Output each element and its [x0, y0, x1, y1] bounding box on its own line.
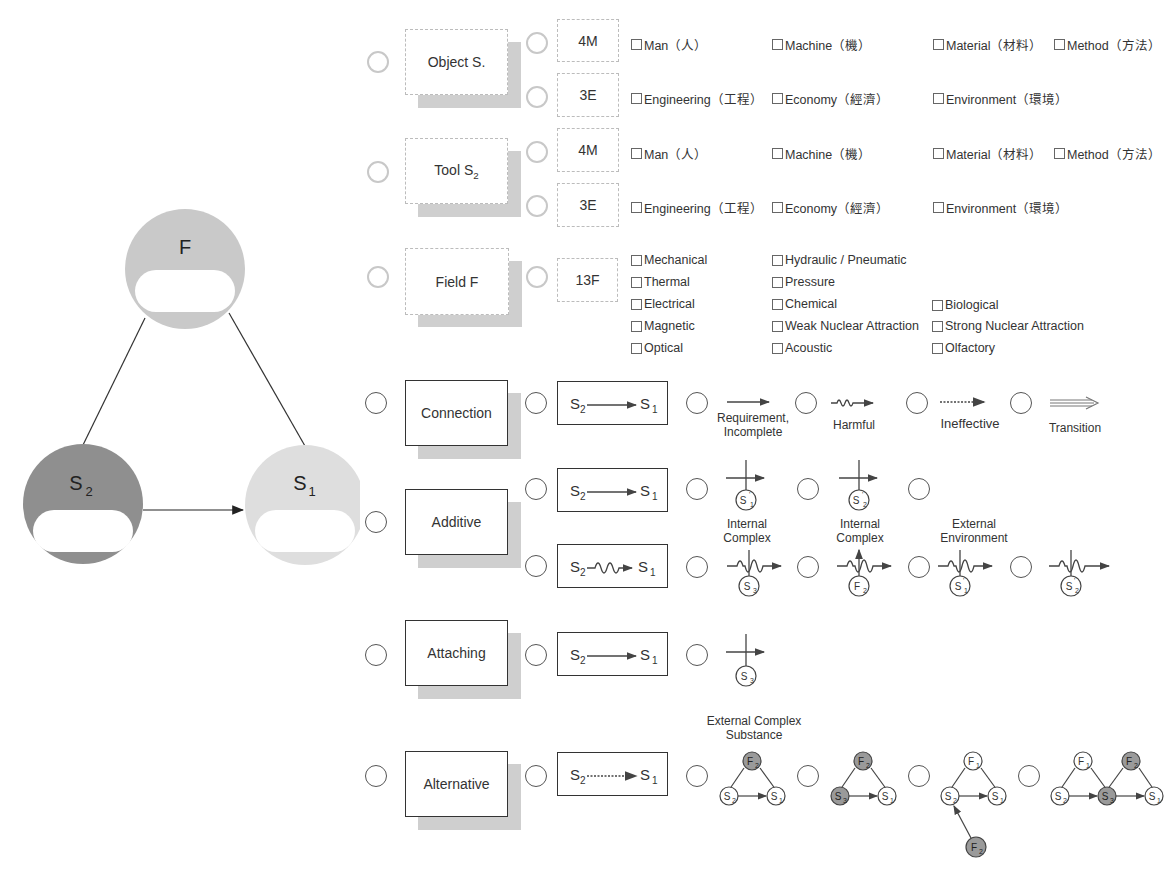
svg-text:1: 1 — [1086, 762, 1090, 769]
svg-text:S: S — [570, 395, 580, 412]
svg-text:2: 2 — [755, 762, 759, 769]
field-radio[interactable] — [367, 266, 389, 288]
wavy-node-s3-icon: S3 — [725, 548, 789, 598]
alternative-option-3-radio[interactable] — [908, 765, 930, 787]
object-environment-checkbox[interactable]: Environment（環境） — [933, 89, 1068, 108]
wavy-arrow-icon — [829, 395, 885, 411]
additive-radio[interactable] — [365, 511, 387, 533]
connection-radio[interactable] — [365, 392, 387, 414]
svg-text:S: S — [835, 791, 842, 802]
svg-text:2: 2 — [1063, 797, 1067, 804]
field-optical-checkbox[interactable]: Optical — [631, 341, 683, 355]
connection-card[interactable]: Connection — [405, 380, 508, 446]
connection-ineffective-radio[interactable] — [906, 392, 928, 414]
attaching-formula-radio[interactable] — [525, 644, 547, 666]
connection-requirement-radio[interactable] — [686, 392, 708, 414]
additive-s3-radio[interactable] — [686, 556, 708, 578]
field-olfactory-checkbox[interactable]: Olfactory — [932, 341, 995, 355]
cross-arrow-s2-icon: S2' — [835, 460, 885, 512]
svg-text:1: 1 — [1157, 797, 1161, 804]
solid-arrow-formula: S2 S1 — [558, 632, 667, 676]
additive-solid-radio[interactable] — [525, 478, 547, 500]
alternative-option-1-radio[interactable] — [686, 765, 708, 787]
field-13f-radio[interactable] — [526, 266, 548, 288]
additive-external-radio[interactable] — [908, 478, 930, 500]
object-economy-checkbox[interactable]: Economy（經濟） — [772, 89, 889, 108]
field-13f-box: 13F — [557, 258, 618, 302]
field-card[interactable]: Field F — [405, 248, 509, 315]
object-material-checkbox[interactable]: Material（材料） — [933, 35, 1042, 54]
field-pressure-checkbox[interactable]: Pressure — [772, 275, 835, 289]
connection-transition-radio[interactable] — [1010, 392, 1032, 414]
field-weak-nuclear-checkbox[interactable]: Weak Nuclear Attraction — [772, 319, 919, 333]
additive-s2prime-radio[interactable] — [1010, 556, 1032, 578]
tool-environment-checkbox[interactable]: Environment（環境） — [933, 198, 1068, 217]
node-F: F — [125, 209, 245, 329]
additive-s1prime-radio[interactable] — [908, 556, 930, 578]
field-acoustic-checkbox[interactable]: Acoustic — [772, 341, 832, 355]
field-mechanical-checkbox[interactable]: Mechanical — [631, 253, 707, 267]
field-electrical-checkbox[interactable]: Electrical — [631, 297, 695, 311]
tool-material-checkbox[interactable]: Material（材料） — [933, 144, 1042, 163]
object-machine-checkbox[interactable]: Machine（機） — [772, 35, 871, 54]
field-chemical-checkbox[interactable]: Chemical — [772, 297, 837, 311]
svg-text:2: 2 — [580, 404, 586, 415]
svg-text:2: 2 — [979, 848, 983, 855]
svg-text:3: 3 — [1110, 797, 1114, 804]
alternative-card[interactable]: Alternative — [405, 751, 508, 817]
svg-text:1: 1 — [650, 567, 656, 578]
cross-arrow-s3-icon: S3 — [722, 632, 772, 688]
tool-economy-checkbox[interactable]: Economy（經濟） — [772, 198, 889, 217]
svg-text:S: S — [771, 791, 778, 802]
tool-card[interactable]: Tool S2 — [405, 138, 508, 204]
alternative-radio[interactable] — [365, 765, 387, 787]
tool-4m-box: 4M — [557, 128, 619, 172]
wavy-node-f2-icon: F2 — [835, 544, 899, 598]
attaching-card[interactable]: Attaching — [405, 620, 508, 686]
tool-man-checkbox[interactable]: Man（人） — [631, 144, 707, 163]
object-method-checkbox[interactable]: Method（方法） — [1054, 35, 1161, 54]
additive-f2-radio[interactable] — [797, 556, 819, 578]
field-hydraulic-checkbox[interactable]: Hydraulic / Pneumatic — [772, 253, 907, 267]
object-engineering-checkbox[interactable]: Engineering（工程） — [631, 89, 763, 108]
object-4m-radio[interactable] — [526, 32, 548, 54]
dashed-arrow-icon — [938, 395, 992, 409]
connection-harmful-radio[interactable] — [795, 392, 817, 414]
field-thermal-checkbox[interactable]: Thermal — [631, 275, 690, 289]
object-radio[interactable] — [367, 51, 389, 73]
wavy-node-s2prime-icon: S2' — [1047, 548, 1119, 598]
svg-text:F: F — [858, 756, 864, 767]
additive-internal-s2-radio[interactable] — [797, 478, 819, 500]
tool-engineering-checkbox[interactable]: Engineering（工程） — [631, 198, 763, 217]
field-strong-nuclear-checkbox[interactable]: Strong Nuclear Attraction — [932, 319, 1084, 333]
additive-solid-formula-box: S2 S1 — [557, 468, 668, 512]
attaching-s3-radio[interactable] — [686, 644, 708, 666]
additive-card[interactable]: Additive — [405, 489, 508, 555]
object-card[interactable]: Object S. — [405, 29, 508, 95]
svg-text:2: 2 — [863, 501, 867, 508]
alternative-option-2-radio[interactable] — [797, 765, 819, 787]
object-3e-radio[interactable] — [526, 86, 548, 108]
attaching-radio[interactable] — [365, 644, 387, 666]
alternative-formula-radio[interactable] — [525, 765, 547, 787]
svg-text:F: F — [854, 581, 860, 592]
additive-wavy-radio[interactable] — [525, 555, 547, 577]
tool-radio[interactable] — [367, 161, 389, 183]
tool-method-checkbox[interactable]: Method（方法） — [1054, 144, 1161, 163]
additive-internal-s1-radio[interactable] — [686, 478, 708, 500]
object-man-checkbox[interactable]: Man（人） — [631, 35, 707, 54]
cross-arrow-s1-icon: S1' — [722, 460, 772, 512]
connection-formula-radio[interactable] — [525, 392, 547, 414]
field-magnetic-checkbox[interactable]: Magnetic — [631, 319, 695, 333]
svg-text:S: S — [570, 558, 580, 575]
svg-text:S: S — [945, 791, 952, 802]
svg-text:2: 2 — [1075, 587, 1079, 594]
tool-machine-checkbox[interactable]: Machine（機） — [772, 144, 871, 163]
svg-text:3: 3 — [750, 677, 754, 684]
tool-3e-radio[interactable] — [526, 195, 548, 217]
field-biological-checkbox[interactable]: Biological — [932, 298, 999, 312]
alternative-option-4-radio[interactable] — [1018, 765, 1040, 787]
svg-text:F: F — [971, 842, 977, 853]
harmful-label: Harmful — [829, 418, 879, 432]
tool-4m-radio[interactable] — [526, 141, 548, 163]
